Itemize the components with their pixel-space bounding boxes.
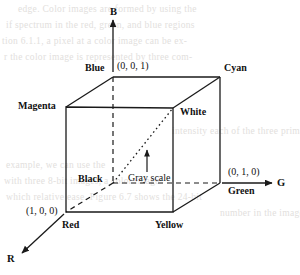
rgb-cube-drawing [0, 0, 300, 275]
axis-r-line [22, 214, 64, 253]
axis-label-b: B [110, 6, 117, 17]
cube-hidden-edge-black-red [66, 183, 113, 212]
axis-label-g: G [277, 177, 285, 188]
vertex-coord-red: (1, 0, 0) [26, 205, 58, 216]
vertex-label-white: White [180, 106, 206, 117]
vertex-coord-green: (0, 1, 0) [228, 166, 260, 177]
figure-page: edge. Color images are formed by using t… [0, 0, 300, 275]
vertex-label-black: Black [78, 173, 102, 184]
axis-label-r: R [7, 253, 15, 264]
cube-front-face-edges [66, 107, 173, 212]
vertex-label-blue: Blue [85, 62, 104, 73]
vertex-label-magenta: Magenta [18, 100, 56, 111]
vertex-label-red: Red [62, 219, 79, 230]
annotation-gray-scale: Gray scale [128, 172, 170, 183]
cube-edge-magenta-blue [66, 77, 113, 107]
vertex-coord-blue: (0, 0, 1) [117, 60, 149, 71]
cube-edge-yellow-green [173, 183, 220, 212]
vertex-label-cyan: Cyan [224, 62, 247, 73]
vertex-label-yellow: Yellow [155, 219, 183, 230]
cube-edge-white-cyan [173, 77, 220, 108]
vertex-label-green: Green [228, 185, 254, 196]
